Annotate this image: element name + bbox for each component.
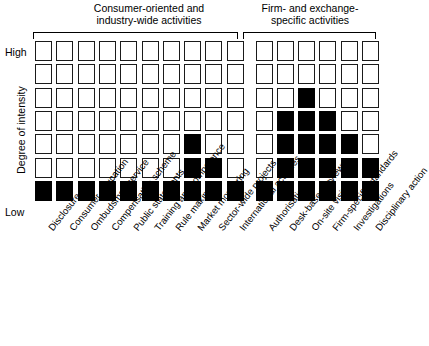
heatmap-cell-filled bbox=[277, 134, 294, 154]
heatmap-cell-empty bbox=[205, 41, 222, 61]
heatmap-cell-empty bbox=[56, 64, 73, 84]
heatmap-cell-empty bbox=[319, 64, 336, 84]
heatmap-cell-filled bbox=[341, 134, 358, 154]
heatmap-cell-empty bbox=[120, 88, 137, 108]
heatmap-cell-empty bbox=[78, 158, 95, 178]
heatmap-cell-empty bbox=[362, 88, 379, 108]
heatmap-cell-empty bbox=[163, 64, 180, 84]
heatmap-cell-empty bbox=[184, 111, 201, 131]
heatmap-cell-empty bbox=[256, 134, 273, 154]
heatmap-cell-empty bbox=[78, 41, 95, 61]
heatmap-cell-empty bbox=[99, 41, 116, 61]
heatmap-cell-empty bbox=[35, 158, 52, 178]
heatmap-cell-empty bbox=[341, 41, 358, 61]
heatmap-cell-empty bbox=[227, 64, 244, 84]
heatmap-cell-empty bbox=[362, 134, 379, 154]
heatmap-cell-empty bbox=[99, 88, 116, 108]
heatmap-cell-empty bbox=[120, 41, 137, 61]
heatmap-cell-empty bbox=[142, 64, 159, 84]
heatmap-cell-empty bbox=[277, 64, 294, 84]
heatmap-cell-empty bbox=[142, 88, 159, 108]
heatmap-cell-empty bbox=[184, 64, 201, 84]
heatmap-cell-empty bbox=[35, 88, 52, 108]
heatmap-cell-empty bbox=[341, 111, 358, 131]
group-title-firm-specific: Firm- and exchange- specific activities bbox=[244, 2, 376, 26]
heatmap-cell-empty bbox=[120, 134, 137, 154]
heatmap-cell-empty bbox=[163, 88, 180, 108]
heatmap-cell-empty bbox=[56, 41, 73, 61]
heatmap-cell-empty bbox=[142, 41, 159, 61]
heatmap-cell-empty bbox=[298, 64, 315, 84]
heatmap-cell-empty bbox=[99, 111, 116, 131]
heatmap-column bbox=[35, 41, 52, 222]
heatmap-cell-empty bbox=[298, 41, 315, 61]
heatmap-cell-empty bbox=[56, 158, 73, 178]
heatmap-cell-empty bbox=[142, 111, 159, 131]
heatmap-cell-filled bbox=[298, 111, 315, 131]
heatmap-cell-empty bbox=[256, 41, 273, 61]
heatmap-cell-empty bbox=[184, 41, 201, 61]
heatmap-cell-empty bbox=[256, 111, 273, 131]
heatmap-cell-empty bbox=[78, 111, 95, 131]
heatmap-cell-empty bbox=[35, 111, 52, 131]
heatmap-cell-filled bbox=[298, 88, 315, 108]
y-axis-title: Degree of intensity bbox=[15, 60, 27, 200]
heatmap-cell-empty bbox=[78, 134, 95, 154]
heatmap-cell-filled bbox=[35, 181, 52, 201]
heatmap-cell-empty bbox=[163, 111, 180, 131]
heatmap-cell-filled bbox=[184, 134, 201, 154]
heatmap-cell-filled bbox=[319, 111, 336, 131]
heatmap-cell-empty bbox=[256, 88, 273, 108]
heatmap-cell-filled bbox=[298, 134, 315, 154]
heatmap-cell-empty bbox=[35, 41, 52, 61]
heatmap-cell-empty bbox=[362, 64, 379, 84]
heatmap-cell-empty bbox=[277, 41, 294, 61]
heatmap-cell-empty bbox=[227, 88, 244, 108]
group-bracket-firm-specific bbox=[243, 32, 376, 39]
heatmap-cell-empty bbox=[205, 88, 222, 108]
heatmap-cell-empty bbox=[205, 111, 222, 131]
y-axis-high-label: High bbox=[5, 46, 35, 58]
heatmap-cell-empty bbox=[362, 41, 379, 61]
heatmap-cell-empty bbox=[319, 41, 336, 61]
heatmap-cell-empty bbox=[142, 134, 159, 154]
heatmap-cell-empty bbox=[56, 134, 73, 154]
heatmap-cell-empty bbox=[35, 64, 52, 84]
heatmap-cell-empty bbox=[184, 88, 201, 108]
y-axis-low-label: Low bbox=[5, 206, 35, 218]
heatmap-cell-empty bbox=[319, 88, 336, 108]
heatmap-cell-empty bbox=[120, 111, 137, 131]
heatmap-cell-empty bbox=[56, 88, 73, 108]
heatmap-cell-filled bbox=[277, 111, 294, 131]
heatmap-cell-empty bbox=[341, 88, 358, 108]
heatmap-cell-empty bbox=[256, 64, 273, 84]
heatmap-cell-empty bbox=[277, 88, 294, 108]
group-bracket-consumer-oriented bbox=[33, 32, 238, 39]
heatmap-cell-empty bbox=[227, 41, 244, 61]
heatmap-cell-empty bbox=[78, 88, 95, 108]
heatmap-cell-empty bbox=[362, 111, 379, 131]
heatmap-cell-empty bbox=[99, 64, 116, 84]
heatmap-cell-empty bbox=[56, 111, 73, 131]
heatmap-cell-filled bbox=[319, 134, 336, 154]
heatmap-cell-empty bbox=[227, 134, 244, 154]
heatmap-cell-empty bbox=[341, 64, 358, 84]
heatmap-cell-empty bbox=[120, 64, 137, 84]
heatmap-cell-empty bbox=[227, 111, 244, 131]
group-title-consumer-oriented: Consumer-oriented and industry-wide acti… bbox=[60, 2, 238, 26]
heatmap-cell-empty bbox=[205, 64, 222, 84]
heatmap-cell-empty bbox=[35, 134, 52, 154]
heatmap-cell-empty bbox=[99, 134, 116, 154]
heatmap-cell-empty bbox=[163, 41, 180, 61]
heatmap-cell-empty bbox=[78, 64, 95, 84]
